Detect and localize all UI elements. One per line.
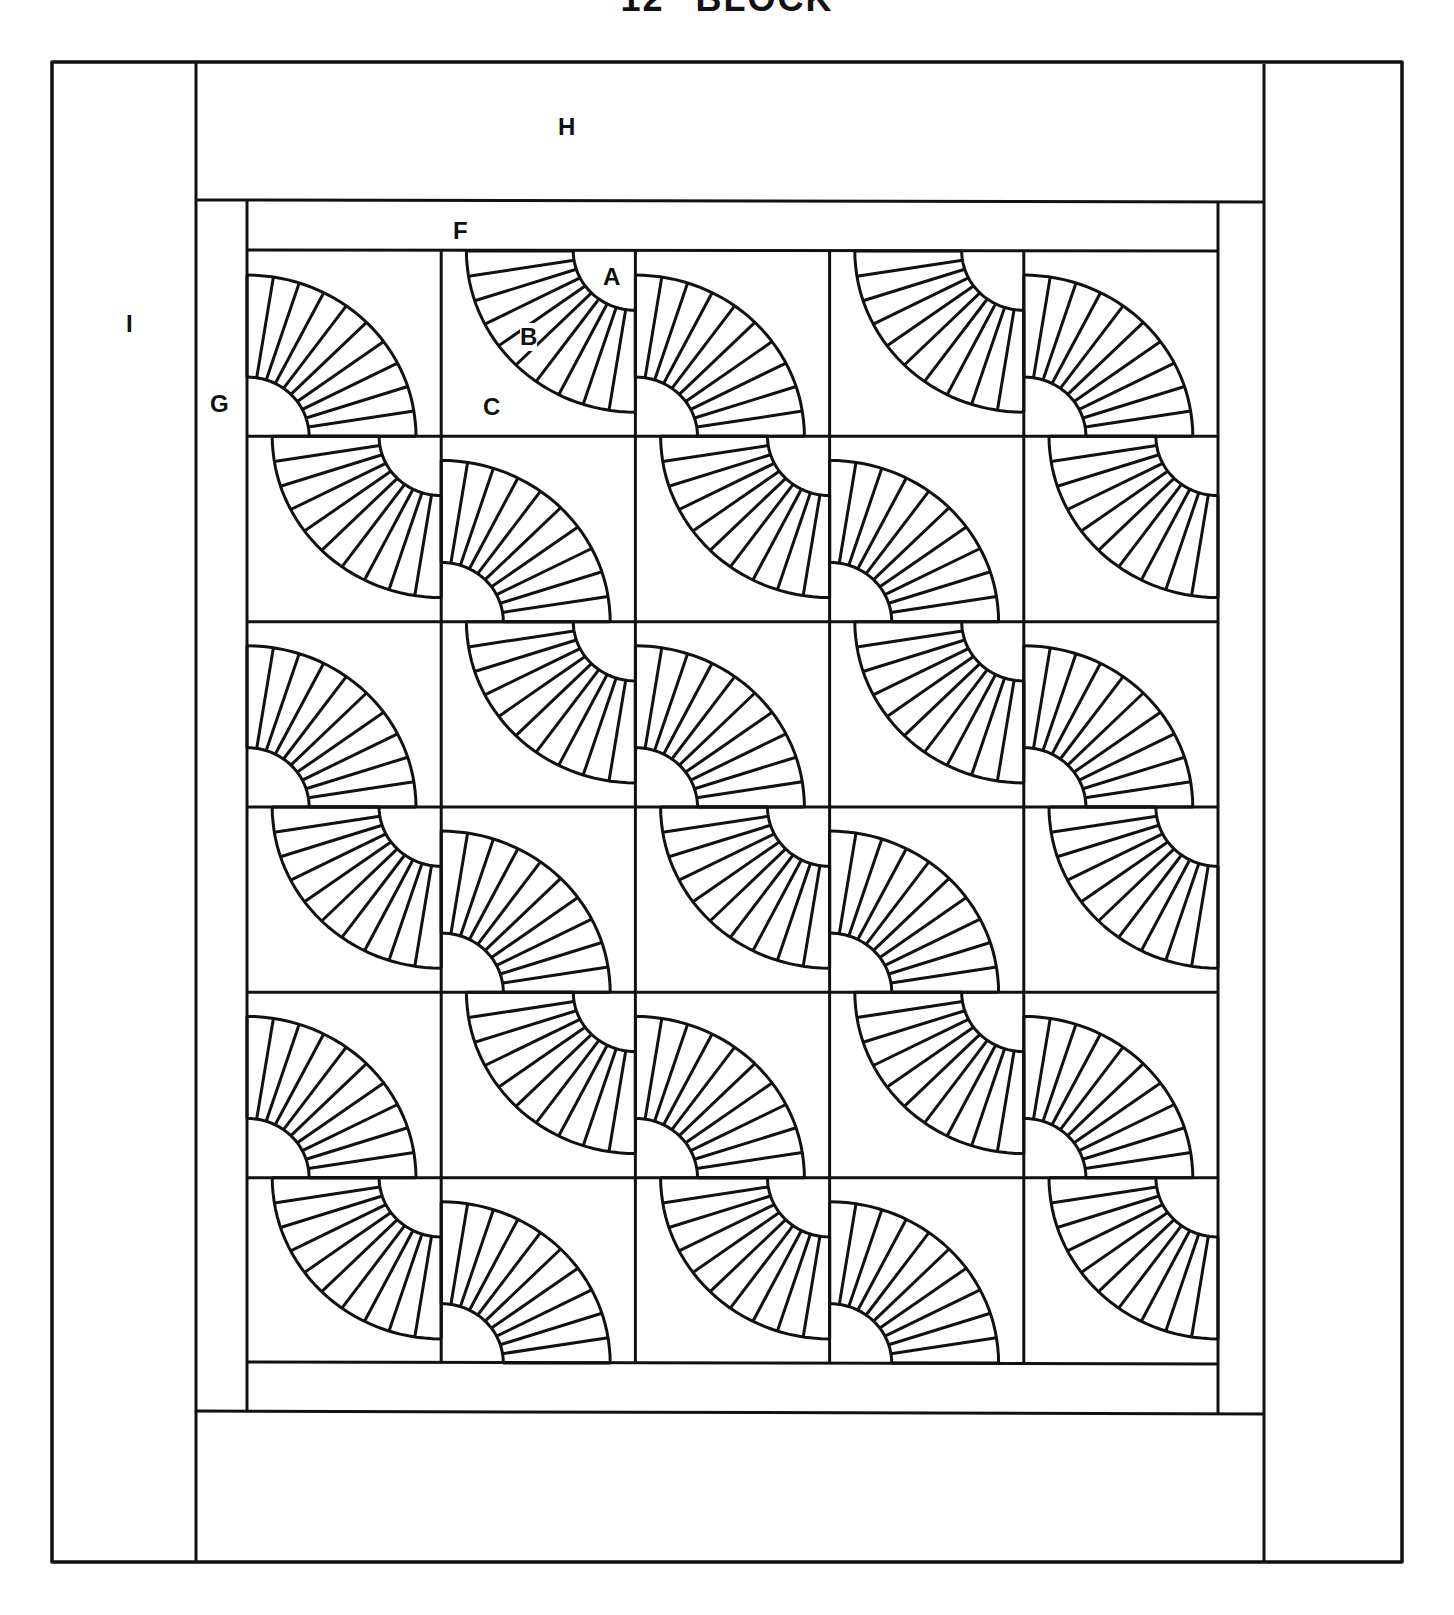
fan-block bbox=[855, 992, 1024, 1153]
fan-block bbox=[661, 436, 830, 597]
label-a: A bbox=[603, 263, 620, 291]
fan-block bbox=[466, 622, 635, 783]
fan-block bbox=[441, 1202, 610, 1363]
fan-block bbox=[441, 831, 610, 992]
fan-block bbox=[247, 1016, 416, 1177]
fan-block bbox=[1049, 436, 1218, 597]
fan-block bbox=[855, 251, 1024, 412]
fan-block bbox=[1049, 1178, 1218, 1339]
fan-blade-line bbox=[672, 677, 735, 759]
fan-block bbox=[247, 275, 416, 436]
fan-block bbox=[830, 1202, 999, 1363]
fan-blade-line bbox=[536, 299, 599, 381]
fan-blade-line bbox=[1060, 677, 1123, 759]
border-h-top-edge bbox=[196, 200, 1264, 202]
fan-block bbox=[441, 460, 610, 621]
fan-block bbox=[1024, 275, 1193, 436]
fan-block bbox=[272, 1178, 441, 1339]
label-g: G bbox=[210, 390, 229, 418]
fan-block bbox=[635, 275, 804, 436]
fan-block bbox=[661, 807, 830, 968]
label-b: B bbox=[520, 323, 537, 351]
border-f-bottom-edge bbox=[247, 1362, 1218, 1364]
fan-blade-line bbox=[1119, 855, 1182, 937]
fan-block bbox=[661, 1178, 830, 1339]
fan-block bbox=[1049, 807, 1218, 968]
label-i: I bbox=[126, 310, 133, 338]
fan-block bbox=[830, 460, 999, 621]
fan-block bbox=[635, 646, 804, 807]
fan-block bbox=[1024, 1016, 1193, 1177]
fan-block bbox=[830, 831, 999, 992]
fan-block bbox=[635, 1016, 804, 1177]
fan-block bbox=[272, 807, 441, 968]
fan-block bbox=[1024, 646, 1193, 807]
fan-block bbox=[466, 992, 635, 1153]
fan-block bbox=[272, 436, 441, 597]
label-c: C bbox=[483, 393, 500, 421]
border-h-bottom-edge bbox=[196, 1411, 1264, 1414]
fan-blade-line bbox=[866, 1233, 929, 1315]
fan-block bbox=[247, 646, 416, 807]
fan-blade-line bbox=[284, 677, 347, 759]
fan-blade-line bbox=[925, 299, 988, 381]
fan-block bbox=[855, 622, 1024, 783]
fan-blade-line bbox=[478, 1233, 541, 1315]
label-h: H bbox=[558, 113, 575, 141]
quilt-diagram bbox=[0, 0, 1454, 1615]
label-f: F bbox=[453, 217, 468, 245]
border-f-top-edge bbox=[247, 250, 1218, 251]
fan-blade-line bbox=[342, 855, 405, 937]
fan-blade-line bbox=[730, 855, 793, 937]
